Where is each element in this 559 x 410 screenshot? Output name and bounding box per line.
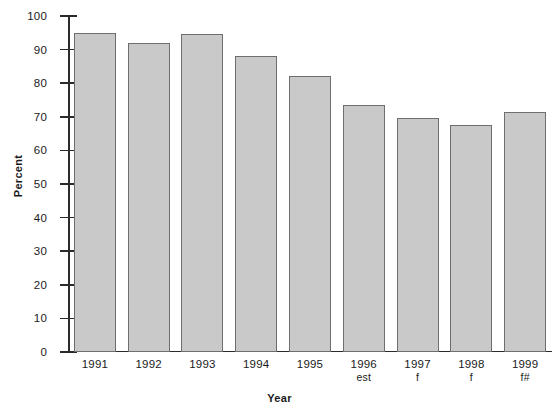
bar-slot <box>337 16 391 352</box>
x-axis-label-year: 1994 <box>243 358 269 370</box>
bar <box>235 56 277 352</box>
x-axis-label: 1995 <box>283 358 337 371</box>
bar-series <box>68 16 552 352</box>
x-axis-label: 1996est <box>337 358 391 384</box>
y-tick-label: 100 <box>27 10 47 22</box>
x-axis-label-year: 1995 <box>297 358 323 370</box>
x-axis-label-year: 1998 <box>458 358 484 370</box>
y-axis-title: Percent <box>12 136 24 216</box>
y-tick-label: 90 <box>34 44 47 56</box>
x-axis-label-year: 1991 <box>82 358 108 370</box>
x-axis-label-note: f# <box>498 371 552 384</box>
bar <box>289 76 331 352</box>
x-axis-label-note: f <box>391 371 445 384</box>
bar <box>181 34 223 352</box>
x-axis-label-year: 1992 <box>135 358 161 370</box>
bar <box>450 125 492 352</box>
y-tick-label: 60 <box>34 144 47 156</box>
bar-slot <box>391 16 445 352</box>
y-tick-label: 10 <box>34 312 47 324</box>
x-axis-label-year: 1999 <box>512 358 538 370</box>
bar <box>397 118 439 352</box>
y-tick-label: 20 <box>34 279 47 291</box>
y-tick-label: 40 <box>34 212 47 224</box>
bar-slot <box>283 16 337 352</box>
bar-slot <box>68 16 122 352</box>
y-tick-label: 70 <box>34 111 47 123</box>
bar-slot <box>122 16 176 352</box>
plot-area: 0102030405060708090100 <box>68 16 552 352</box>
x-axis-label-year: 1993 <box>189 358 215 370</box>
bar <box>74 33 116 352</box>
bar-slot <box>444 16 498 352</box>
y-tick-label: 0 <box>40 346 47 358</box>
x-axis-label-year: 1996 <box>351 358 377 370</box>
bar <box>128 43 170 352</box>
y-tick-label: 80 <box>34 77 47 89</box>
x-axis-label: 1999f# <box>498 358 552 384</box>
x-axis-label-note: f <box>444 371 498 384</box>
bar <box>504 112 546 352</box>
x-axis-label: 1991 <box>68 358 122 371</box>
bar-slot <box>176 16 230 352</box>
x-axis-label-note: est <box>337 371 391 384</box>
x-axis-label: 1997f <box>391 358 445 384</box>
bar-slot <box>229 16 283 352</box>
bar-slot <box>498 16 552 352</box>
x-axis-labels: 199119921993199419951996est1997f1998f199… <box>68 358 552 394</box>
x-axis-label-year: 1997 <box>404 358 430 370</box>
bar-chart: Percent 0102030405060708090100 199119921… <box>0 0 559 410</box>
y-tick-label: 50 <box>34 178 47 190</box>
x-axis-label: 1994 <box>229 358 283 371</box>
x-axis-label: 1998f <box>444 358 498 384</box>
x-axis-label: 1993 <box>176 358 230 371</box>
y-tick-label: 30 <box>34 245 47 257</box>
bar <box>343 105 385 352</box>
x-axis-title: Year <box>0 392 559 404</box>
x-axis-label: 1992 <box>122 358 176 371</box>
